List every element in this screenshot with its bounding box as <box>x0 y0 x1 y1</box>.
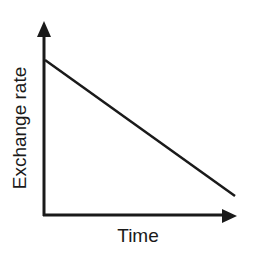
x-axis-label: Time <box>117 225 159 247</box>
x-axis-arrow-icon <box>222 209 237 223</box>
exchange-rate-line <box>45 60 235 196</box>
chart: Exchange rate Time <box>0 0 260 260</box>
y-axis-arrow-icon <box>37 21 51 37</box>
chart-plot <box>0 0 260 260</box>
y-axis-label: Exchange rate <box>9 67 31 190</box>
